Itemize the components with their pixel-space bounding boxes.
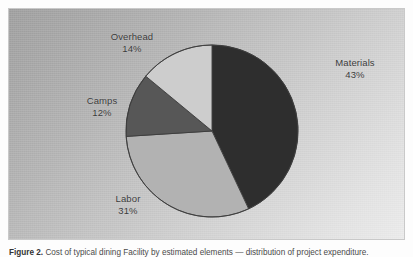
figure-caption-number: Figure 2.: [9, 248, 43, 257]
pie-label-overhead-name: Overhead: [95, 31, 169, 43]
pie-label-labor: Labor 31%: [97, 193, 159, 217]
pie-label-materials: Materials 43%: [318, 57, 392, 81]
pie-label-camps: Camps 12%: [71, 95, 133, 119]
pie-slice-group: [126, 45, 298, 217]
pie-label-overhead: Overhead 14%: [95, 31, 169, 55]
pie-label-labor-name: Labor: [97, 193, 159, 205]
figure-root: Overhead 14% Materials 43% Camps 12% Lab…: [0, 0, 413, 257]
pie-label-materials-value: 43%: [318, 69, 392, 81]
pie-label-camps-value: 12%: [71, 107, 133, 119]
chart-frame: Overhead 14% Materials 43% Camps 12% Lab…: [8, 8, 405, 240]
figure-caption-text: Cost of typical dining Facility by estim…: [45, 248, 368, 257]
pie-label-materials-name: Materials: [318, 57, 392, 69]
pie-chart: [9, 9, 405, 240]
pie-label-labor-value: 31%: [97, 205, 159, 217]
pie-label-camps-name: Camps: [71, 95, 133, 107]
pie-label-overhead-value: 14%: [95, 43, 169, 55]
figure-caption: Figure 2. Cost of typical dining Facilit…: [9, 248, 409, 257]
